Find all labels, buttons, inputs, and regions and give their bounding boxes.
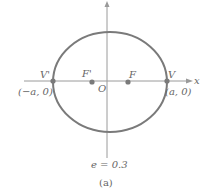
vertex-right-label: V xyxy=(168,69,177,80)
vertex-left-point xyxy=(50,78,55,83)
y-axis-arrow-icon xyxy=(105,1,110,7)
origin-label: O xyxy=(98,83,106,94)
focus-right-label: F xyxy=(128,69,137,80)
focus-left-label: F' xyxy=(81,68,92,79)
eccentricity-label: e = 0.3 xyxy=(91,159,128,170)
focus-right-point xyxy=(125,79,130,84)
vertex-right-coord: (a, 0) xyxy=(165,86,192,97)
vertex-left-coord: (−a, 0) xyxy=(18,86,53,97)
ellipse-diagram: V' (−a, 0) F' O F V (a, 0) x e = 0.3 (a) xyxy=(0,0,208,193)
x-axis-label: x xyxy=(194,75,200,86)
ellipse-curve xyxy=(53,32,167,132)
figure-caption: (a) xyxy=(99,177,113,188)
vertex-left-label: V' xyxy=(40,69,50,80)
x-axis-arrow-icon xyxy=(186,79,193,84)
focus-left-point xyxy=(89,79,94,84)
